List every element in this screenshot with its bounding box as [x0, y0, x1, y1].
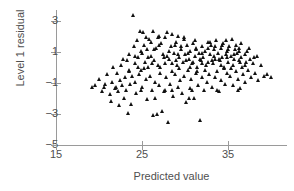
data-point-marker	[246, 68, 250, 72]
data-point-marker	[203, 68, 207, 72]
data-point-marker	[234, 69, 238, 73]
data-point-marker	[194, 47, 198, 51]
data-point-marker	[171, 94, 175, 98]
data-point-marker	[196, 83, 200, 87]
data-point-marker	[119, 63, 123, 67]
data-point-marker	[195, 65, 199, 69]
data-point-marker	[170, 69, 174, 73]
data-point-marker	[163, 61, 167, 65]
data-point-marker	[150, 61, 154, 65]
data-point-marker	[237, 46, 241, 50]
data-point-marker	[152, 47, 156, 51]
data-point-marker	[217, 57, 221, 61]
data-point-marker	[190, 61, 194, 65]
data-point-marker	[198, 118, 202, 122]
data-point-marker	[226, 60, 230, 64]
data-point-marker	[240, 65, 244, 69]
data-point-marker	[133, 54, 137, 58]
data-point-marker	[248, 57, 252, 61]
data-point-marker	[222, 66, 226, 70]
data-point-marker	[174, 40, 178, 44]
data-point-marker	[145, 97, 149, 101]
data-point-marker	[187, 96, 191, 100]
data-point-marker	[123, 75, 127, 79]
data-point-marker	[173, 72, 177, 76]
data-point-marker	[176, 34, 180, 38]
data-point-marker	[213, 57, 217, 61]
data-point-marker	[197, 51, 201, 55]
data-point-marker	[117, 103, 121, 107]
data-point-marker	[177, 66, 181, 70]
data-point-marker	[165, 54, 169, 58]
data-point-marker	[201, 55, 205, 59]
data-point-marker	[121, 57, 125, 61]
data-point-marker	[213, 44, 217, 48]
data-point-marker	[137, 72, 141, 76]
data-point-marker	[184, 58, 188, 62]
data-point-marker	[215, 69, 219, 73]
data-point-marker	[185, 43, 189, 47]
y-tick-label: 1	[36, 46, 58, 57]
data-point-marker	[155, 112, 159, 116]
data-point-marker	[206, 40, 210, 44]
y-tick-label: −1	[36, 77, 58, 88]
data-point-marker	[210, 85, 214, 89]
data-point-marker	[170, 32, 174, 36]
data-point-marker	[127, 69, 131, 73]
data-point-marker	[132, 44, 136, 48]
data-point-marker	[165, 30, 169, 34]
data-point-marker	[265, 72, 269, 76]
data-point-marker	[193, 54, 197, 58]
data-point-marker	[222, 65, 226, 69]
data-point-marker	[156, 63, 160, 67]
data-point-marker	[224, 38, 228, 42]
data-point-marker	[182, 74, 186, 78]
data-point-marker	[237, 58, 241, 62]
data-point-marker	[105, 72, 109, 76]
data-point-marker	[115, 71, 119, 75]
data-point-marker	[190, 88, 194, 92]
data-point-marker	[215, 88, 219, 92]
data-point-marker	[225, 55, 229, 59]
data-point-marker	[166, 120, 170, 124]
data-point-marker	[239, 55, 243, 59]
data-point-marker	[134, 91, 138, 95]
data-point-marker	[232, 57, 236, 61]
data-point-marker	[163, 88, 167, 92]
data-point-marker	[202, 88, 206, 92]
data-point-marker	[212, 47, 216, 51]
data-point-marker	[139, 49, 143, 53]
data-point-marker	[188, 65, 192, 69]
data-point-marker	[214, 38, 218, 42]
data-point-marker	[219, 63, 223, 67]
data-point-marker	[239, 41, 243, 45]
data-point-marker	[256, 78, 260, 82]
data-point-marker	[200, 61, 204, 65]
data-point-marker	[249, 75, 253, 79]
data-point-marker	[90, 85, 94, 89]
data-point-marker	[170, 88, 174, 92]
data-point-marker	[191, 41, 195, 45]
data-point-marker	[176, 85, 180, 89]
data-point-marker	[182, 37, 186, 41]
data-point-marker	[116, 89, 120, 93]
data-point-marker	[114, 85, 118, 89]
x-tick-label: 15	[41, 149, 71, 160]
data-point-marker	[187, 57, 191, 61]
data-point-marker	[183, 52, 187, 56]
data-point-marker	[180, 91, 184, 95]
data-point-marker	[131, 13, 135, 17]
data-point-marker	[167, 49, 171, 53]
data-point-marker	[167, 57, 171, 61]
data-point-marker	[142, 43, 146, 47]
data-point-marker	[179, 44, 183, 48]
y-axis-title: Level 1 residual	[14, 0, 26, 103]
data-point-marker	[170, 61, 174, 65]
data-point-marker	[184, 100, 188, 104]
data-point-marker	[199, 58, 203, 62]
data-point-marker	[163, 35, 167, 39]
data-point-marker	[144, 77, 148, 81]
data-point-marker	[144, 35, 148, 39]
data-point-marker	[241, 72, 245, 76]
data-point-marker	[226, 47, 230, 51]
